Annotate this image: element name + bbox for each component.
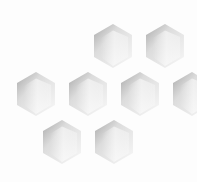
hexagon-pattern-image (0, 0, 197, 182)
hexagon-grid (0, 0, 197, 182)
